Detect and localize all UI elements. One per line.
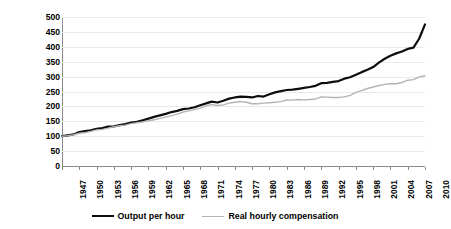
x-tick-mark (131, 167, 132, 170)
x-tick-label: 2010 (441, 180, 451, 212)
x-tick: 1977 (230, 167, 240, 205)
x-tick: 1983 (264, 167, 274, 205)
x-tick-mark (425, 167, 426, 170)
x-tick: 1998 (351, 167, 361, 205)
x-tick: 2001 (368, 167, 378, 205)
x-tick: 1980 (247, 167, 257, 205)
y-tick-label: 150 (30, 117, 60, 125)
y-tick-label: 350 (30, 58, 60, 66)
x-tick: 1974 (213, 167, 223, 205)
y-axis-tick-labels: 500450400350300250200150100500 (28, 0, 60, 229)
x-tick: 1950 (74, 167, 84, 205)
y-tick-label: 500 (30, 13, 60, 21)
x-tick-mark (390, 167, 391, 170)
x-tick: 1992 (316, 167, 326, 205)
x-tick: 1971 (195, 167, 205, 205)
y-tick-label: 300 (30, 73, 60, 81)
x-tick-mark (166, 167, 167, 170)
x-tick-mark (287, 167, 288, 170)
x-tick-mark (235, 167, 236, 170)
legend-item-2[interactable]: Real hourly compensation (202, 211, 338, 221)
x-tick-mark (114, 167, 115, 170)
x-tick-mark (339, 167, 340, 170)
y-tick-label: 400 (30, 43, 60, 51)
x-tick: 1947 (57, 167, 67, 205)
x-tick-mark (200, 167, 201, 170)
x-tick-mark (218, 167, 219, 170)
chart-legend: Output per hourReal hourly compensation (0, 208, 430, 224)
x-tick-mark (269, 167, 270, 170)
x-tick-mark (373, 167, 374, 170)
x-tick: 1959 (126, 167, 136, 205)
y-tick-label: 0 (30, 162, 60, 170)
y-tick-label: 100 (30, 132, 60, 140)
legend-label: Real hourly compensation (228, 211, 338, 221)
y-tick-label: 250 (30, 88, 60, 96)
x-tick-mark (252, 167, 253, 170)
y-tick-label: 50 (30, 147, 60, 155)
x-tick-mark (148, 167, 149, 170)
x-tick-mark (97, 167, 98, 170)
x-tick: 2010 (420, 167, 430, 205)
plot-area (62, 17, 425, 166)
series-line-1 (62, 24, 425, 136)
y-tick-label: 450 (30, 28, 60, 36)
x-tick: 1953 (92, 167, 102, 205)
x-tick: 1962 (143, 167, 153, 205)
x-tick: 1989 (299, 167, 309, 205)
x-tick: 2007 (403, 167, 413, 205)
x-axis-tick-labels: 1947195019531956195919621965196819711974… (62, 167, 425, 207)
x-tick-mark (304, 167, 305, 170)
x-tick-mark (321, 167, 322, 170)
legend-line-swatch (92, 215, 114, 217)
x-tick: 1968 (178, 167, 188, 205)
x-tick: 1995 (334, 167, 344, 205)
legend-line-swatch (202, 216, 224, 217)
series-line-2 (62, 76, 425, 136)
x-tick: 1965 (161, 167, 171, 205)
legend-item-1[interactable]: Output per hour (92, 211, 185, 221)
x-tick: 1956 (109, 167, 119, 205)
x-tick-mark (62, 167, 63, 170)
x-tick-mark (183, 167, 184, 170)
y-tick-label: 200 (30, 102, 60, 110)
x-tick-mark (356, 167, 357, 170)
x-tick-mark (79, 167, 80, 170)
x-tick: 2004 (385, 167, 395, 205)
x-tick-mark (408, 167, 409, 170)
x-tick: 1986 (282, 167, 292, 205)
legend-label: Output per hour (118, 211, 185, 221)
series-lines (62, 17, 425, 166)
